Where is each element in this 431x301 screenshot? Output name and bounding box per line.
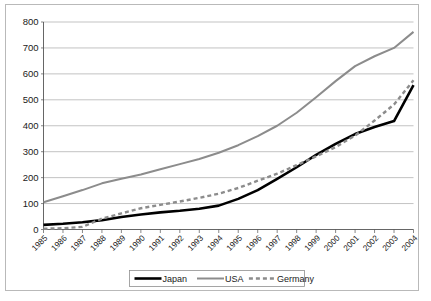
x-tick-label: 1999 [303,233,323,253]
x-axis-tickmarks [44,230,414,234]
legend-label-germany: Germany [277,274,315,284]
x-tick-label: 1992 [166,233,186,253]
x-tick-label: 1988 [89,233,109,253]
y-tick-label: 400 [23,120,39,131]
x-tick-label: 1993 [186,233,206,253]
x-tick-label: 2004 [400,233,420,253]
legend-label-usa: USA [225,274,244,284]
gridlines-group [44,22,414,204]
chart-canvas: 0100200300400500600700800 19851986198719… [0,0,431,301]
x-tick-label: 2002 [361,233,381,253]
x-tick-label: 1994 [205,233,225,253]
series-line-usa [44,32,414,202]
y-tick-label: 700 [23,42,39,53]
data-series-group [44,32,414,229]
x-tick-label: 1990 [128,233,148,253]
x-tick-label: 1991 [147,233,167,253]
x-tick-label: 1995 [225,233,245,253]
x-tick-label: 2001 [342,233,362,253]
y-tick-label: 0 [33,224,38,235]
x-tick-label: 1985 [30,233,50,253]
x-tick-label: 2000 [322,233,342,253]
x-tick-label: 1989 [108,233,128,253]
x-tick-label: 1996 [244,233,264,253]
x-tick-label: 1986 [50,233,70,253]
line-chart: 0100200300400500600700800 19851986198719… [0,0,431,301]
y-tick-label: 800 [23,16,39,27]
y-axis-tick-labels: 0100200300400500600700800 [23,16,44,235]
y-tick-label: 200 [23,172,39,183]
series-line-germany [44,80,414,228]
y-tick-label: 600 [23,68,39,79]
y-tick-label: 100 [23,198,39,209]
x-tick-label: 1987 [69,233,89,253]
x-tick-label: 1997 [264,233,284,253]
y-tick-label: 500 [23,94,39,105]
x-axis-tick-labels: 1985198619871988198919901991199219931994… [30,233,420,253]
chart-legend: JapanUSAGermany [130,271,315,287]
legend-label-japan: Japan [163,274,188,284]
y-tick-label: 300 [23,146,39,157]
x-tick-label: 1998 [283,233,303,253]
x-tick-label: 2003 [381,233,401,253]
